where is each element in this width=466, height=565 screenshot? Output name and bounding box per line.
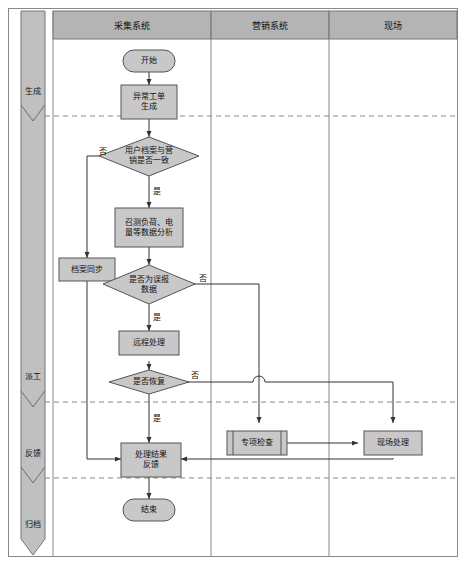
flowchart-canvas <box>9 9 459 558</box>
edge-label-profile-no: 否 <box>99 145 107 156</box>
phase-label-dispatch: 派工 <box>22 372 44 381</box>
phase-label-feedback: 反馈 <box>22 449 44 458</box>
phase-dividers <box>45 116 457 478</box>
phase-label-generate: 生成 <box>22 87 44 96</box>
lane-header-field: 现场 <box>329 11 457 39</box>
edge-label-recover-no: 否 <box>191 369 199 380</box>
edge-label-profile-yes: 是 <box>153 185 161 196</box>
edge-label-recover-yes: 是 <box>153 412 161 423</box>
lane-header-marketing: 营销系统 <box>211 11 329 39</box>
edge-label-false-no: 否 <box>199 272 207 283</box>
lane-header-collection: 采集系统 <box>53 11 211 39</box>
diagram-frame: 采集系统 营销系统 现场 生成 派工 反馈 归档 开始 异常工单生成 用户档案与… <box>8 8 458 557</box>
edge-label-false-yes: 是 <box>153 311 161 322</box>
flowchart-page: 采集系统 营销系统 现场 生成 派工 反馈 归档 开始 异常工单生成 用户档案与… <box>0 0 466 565</box>
node-shapes <box>59 50 422 521</box>
phase-label-archive: 归档 <box>22 520 44 529</box>
